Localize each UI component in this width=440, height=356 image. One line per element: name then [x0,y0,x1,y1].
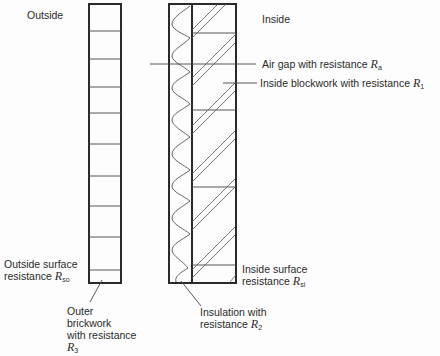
inner-leaf [169,0,248,318]
inside-label: Inside [262,13,290,25]
air-gap-label: Air gap with resistance Ra [262,58,382,74]
insulation-text: resistance [200,318,251,330]
outside-surface-line1: Outside surface [4,258,78,270]
inside-blockwork-label: Inside blockwork with resistance R1 [260,77,424,93]
inside-surface-label: Inside surface resistance Rsi [242,263,307,291]
cavity-wall-diagram: Outside Inside Air gap with resistance R… [0,0,440,356]
outside-label: Outside [27,9,63,21]
inside-surface-subscript: si [300,281,305,288]
outer-brickwork-line4: R3 [67,341,136,356]
outside-surface-text: resistance [4,270,55,282]
insulation-label: Insulation with resistance R2 [200,306,267,334]
insulation-leader [181,281,201,306]
insulation-wave [172,6,190,282]
air-gap-text: Air gap with resistance [262,58,371,70]
outer-brickwork-leaf [89,4,121,283]
outside-surface-label: Outside surface resistance Rso [4,258,78,286]
blockwork-hatching [192,0,248,318]
inside-blockwork-subscript: 1 [420,83,424,90]
inside-blockwork-text: Inside blockwork with resistance [260,77,413,89]
outer-brickwork-label: Outer brickwork with resistance R3 [67,305,136,356]
outer-brickwork-line2: brickwork [67,317,136,329]
inside-surface-text: resistance [242,275,293,287]
air-gap-symbol: R [371,57,378,71]
insulation-line2: resistance R2 [200,318,267,334]
insulation-subscript: 2 [258,324,262,331]
outside-surface-subscript: so [62,276,69,283]
air-gap-subscript: a [378,64,382,71]
wall-section-drawing [0,0,440,356]
outer-brickwork-line3: with resistance [67,329,136,341]
outside-surface-line2: resistance Rso [4,270,78,286]
outer-brickwork-subscript: 3 [74,347,78,354]
inside-surface-line2: resistance Rsi [242,275,307,291]
outer-brickwork-line1: Outer [67,305,136,317]
